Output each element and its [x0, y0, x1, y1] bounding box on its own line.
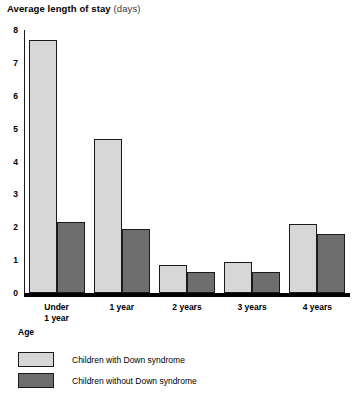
bar-with-down-syndrome-1 [94, 139, 122, 294]
chart-title-main: Average length of stay [7, 3, 111, 14]
y-axis-tick-2: 2 [13, 223, 18, 232]
bar-with-down-syndrome-4 [289, 224, 317, 293]
y-axis-tick-7: 7 [13, 59, 18, 68]
bar-with-down-syndrome-2 [159, 265, 187, 293]
y-axis-line [24, 30, 25, 293]
y-axis-tick-0: 0 [13, 289, 18, 298]
chart-legend: Children with Down syndromeChildren with… [18, 349, 338, 391]
bar-with-down-syndrome-3 [224, 262, 252, 293]
legend-label-with-down-syndrome: Children with Down syndrome [72, 355, 185, 365]
bar-without-down-syndrome-2 [187, 272, 215, 293]
legend-item: Children without Down syndrome [18, 370, 338, 391]
bar-without-down-syndrome-3 [252, 272, 280, 293]
legend-swatch-with-down-syndrome [18, 352, 54, 367]
legend-label-without-down-syndrome: Children without Down syndrome [72, 376, 197, 386]
bar-without-down-syndrome-0 [57, 222, 85, 293]
legend-swatch-without-down-syndrome [18, 373, 54, 388]
bar-with-down-syndrome-0 [29, 40, 57, 293]
legend-item: Children with Down syndrome [18, 349, 338, 370]
x-axis-line [24, 293, 350, 297]
x-axis-title: Age [18, 327, 34, 337]
chart-title: Average length of stay (days) [7, 3, 141, 14]
bar-without-down-syndrome-1 [122, 229, 150, 293]
x-axis-category-label-4: 4 years [303, 302, 332, 313]
y-axis-tick-3: 3 [13, 190, 18, 199]
y-axis-tick-5: 5 [13, 124, 18, 133]
chart-title-unit: (days) [114, 3, 141, 14]
x-axis-category-label-3: 3 years [238, 302, 267, 313]
y-axis-tick-4: 4 [13, 157, 18, 166]
x-axis-category-label-0: Under 1 year [44, 302, 69, 323]
x-axis-category-label-1: 1 year [110, 302, 135, 313]
y-axis-tick-1: 1 [13, 256, 18, 265]
plot-area: 012345678 [24, 26, 350, 297]
bar-without-down-syndrome-4 [317, 234, 345, 293]
y-axis-tick-8: 8 [13, 26, 18, 35]
y-axis-tick-6: 6 [13, 92, 18, 101]
x-axis-category-label-2: 2 years [172, 302, 201, 313]
